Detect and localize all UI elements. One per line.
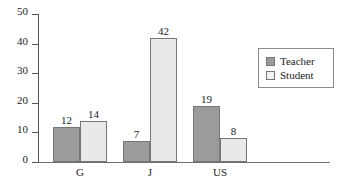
y-tick-label-0: 0 bbox=[23, 154, 29, 165]
legend-label-student: Student bbox=[280, 69, 314, 81]
bar-g-teacher: 12 bbox=[53, 127, 80, 163]
x-tick-label-us: US bbox=[213, 166, 227, 178]
x-axis-line bbox=[38, 162, 330, 163]
bar-label-j-teacher: 7 bbox=[134, 129, 140, 140]
legend-label-teacher: Teacher bbox=[280, 55, 315, 67]
y-tick-label-50: 50 bbox=[17, 6, 28, 17]
y-tick-label-40: 40 bbox=[17, 36, 28, 47]
legend: Teacher Student bbox=[258, 48, 334, 88]
bar-us-student: 8 bbox=[220, 138, 247, 162]
legend-entry-teacher: Teacher bbox=[266, 54, 327, 68]
plot-area: 12 14 7 42 19 8 bbox=[38, 14, 248, 162]
y-tick-label-10: 10 bbox=[17, 124, 28, 135]
bar-j-teacher: 7 bbox=[123, 141, 150, 162]
y-tick-label-20: 20 bbox=[17, 95, 28, 106]
bar-j-student: 42 bbox=[150, 38, 177, 162]
bar-label-us-student: 8 bbox=[231, 126, 237, 137]
legend-swatch-student-icon bbox=[266, 71, 275, 80]
y-tick-label-30: 30 bbox=[17, 65, 28, 76]
legend-swatch-teacher-icon bbox=[266, 57, 275, 66]
bar-label-j-student: 42 bbox=[158, 26, 169, 37]
bar-label-g-teacher: 12 bbox=[61, 115, 72, 126]
bar-us-teacher: 19 bbox=[193, 106, 220, 162]
x-tick-label-g: G bbox=[76, 166, 84, 178]
legend-entry-student: Student bbox=[266, 68, 327, 82]
bar-chart-figure: 50 40 30 20 10 0 12 14 7 42 bbox=[0, 0, 338, 192]
bar-label-us-teacher: 19 bbox=[201, 94, 212, 105]
x-tick-label-j: J bbox=[148, 166, 152, 178]
bar-g-student: 14 bbox=[80, 121, 107, 162]
bar-label-g-student: 14 bbox=[88, 109, 99, 120]
